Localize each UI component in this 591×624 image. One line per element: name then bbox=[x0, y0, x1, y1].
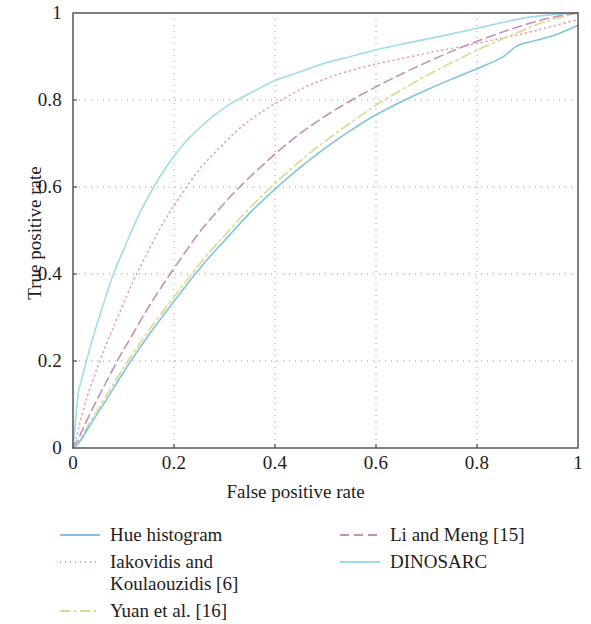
x-tick-3: 0.6 bbox=[364, 452, 388, 474]
legend-swatch-li-and-meng-icon bbox=[340, 524, 380, 544]
x-axis-title: False positive rate bbox=[0, 481, 591, 503]
x-tick-4: 0.8 bbox=[465, 452, 489, 474]
roc-curve-iakovidis-and-koulaouzidis-6 bbox=[73, 20, 578, 448]
x-tick-0: 0 bbox=[68, 452, 78, 474]
y-axis-title: True positive rate bbox=[24, 113, 46, 353]
legend-label-li-and-meng: Li and Meng [15] bbox=[390, 524, 525, 546]
roc-curve-figure: 0 0.2 0.4 0.6 0.8 1 0 0.2 0.4 0.6 0.8 1 … bbox=[0, 0, 591, 624]
legend-swatch-dinosarc-icon bbox=[340, 551, 380, 571]
legend-swatch-yuan-et-al-icon bbox=[60, 600, 100, 620]
y-tick-0: 0 bbox=[52, 437, 62, 459]
legend-swatch-hue-histogram-icon bbox=[60, 524, 100, 544]
legend-item-hue-histogram[interactable]: Hue histogram bbox=[60, 524, 340, 546]
y-tick-4: 0.8 bbox=[38, 89, 62, 111]
legend-item-li-and-meng[interactable]: Li and Meng [15] bbox=[340, 524, 580, 546]
legend-label-iakovidis-koulaouzidis: Iakovidis and Koulaouzidis [6] bbox=[110, 551, 238, 595]
legend-item-dinosarc[interactable]: DINOSARC bbox=[340, 551, 580, 573]
legend-swatch-iakovidis-koulaouzidis-icon bbox=[60, 551, 100, 571]
y-tick-1: 0.2 bbox=[38, 350, 62, 372]
x-tick-1: 0.2 bbox=[162, 452, 186, 474]
y-tick-5: 1 bbox=[52, 2, 62, 24]
legend-label-hue-histogram: Hue histogram bbox=[110, 524, 222, 546]
roc-curve-hue-histogram bbox=[73, 25, 578, 448]
legend-label-yuan-et-al: Yuan et al. [16] bbox=[110, 600, 227, 622]
legend-label-dinosarc: DINOSARC bbox=[390, 551, 487, 573]
legend: Hue histogramIakovidis and Koulaouzidis … bbox=[60, 524, 580, 624]
legend-column-right: Li and Meng [15]DINOSARC bbox=[340, 524, 580, 578]
legend-column-left: Hue histogramIakovidis and Koulaouzidis … bbox=[60, 524, 340, 624]
x-tick-2: 0.4 bbox=[263, 452, 287, 474]
legend-item-yuan-et-al[interactable]: Yuan et al. [16] bbox=[60, 600, 340, 622]
legend-item-iakovidis-koulaouzidis[interactable]: Iakovidis and Koulaouzidis [6] bbox=[60, 551, 340, 595]
curve-group bbox=[73, 13, 578, 448]
x-tick-5: 1 bbox=[573, 452, 583, 474]
